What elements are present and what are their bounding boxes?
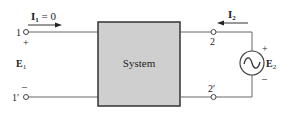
terminal-2-prime [211,95,216,100]
arrow-right-icon [55,23,62,28]
system-label: System [123,57,156,69]
source-plus: + [262,43,268,54]
two-port-circuit-diagram: System I1 = 0 1 + E1 – 1′ I2 2 2′ + E2 – [0,0,291,113]
terminal-2-label: 2 [210,36,215,47]
current-i1-label: I1 = 0 [31,10,56,24]
current-i2-label: I2 [228,8,236,22]
port1-minus: – [21,81,28,92]
source-e2-label: E2 [266,58,277,71]
terminal-1-prime-label: 1′ [12,92,19,103]
terminal-2-prime-label: 2′ [208,83,215,94]
port1-plus: + [23,37,29,48]
voltage-e1-label: E1 [16,58,27,71]
terminal-1-prime [24,95,29,100]
arrow-left-icon [217,21,224,26]
terminal-2 [211,30,216,35]
source-minus: – [261,73,268,84]
terminal-1 [24,30,29,35]
terminal-1-label: 1 [16,27,21,38]
